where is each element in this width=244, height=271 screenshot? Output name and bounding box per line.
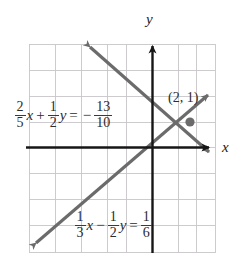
operator-plus: +	[34, 108, 47, 123]
intersection-point-label: (2, 1)	[168, 90, 198, 106]
variable-x: x	[86, 218, 94, 233]
variable-y: y	[119, 218, 127, 233]
y-axis-label: y	[146, 11, 153, 28]
fraction-one-sixth: 1 6	[141, 210, 152, 240]
fraction-two-fifths: 2 5	[15, 100, 26, 130]
equation-two-label: 1 3 x − 1 2 y = 1 6	[74, 210, 152, 240]
equation-one-label: 2 5 x + 1 2 y = − 13 10	[14, 100, 113, 130]
intersection-point-marker	[185, 117, 194, 126]
fraction-one-half-x: 1 2	[48, 100, 59, 130]
equals-sign: =	[127, 218, 140, 233]
variable-y: y	[59, 108, 67, 123]
fraction-one-half-y: 1 2	[108, 210, 119, 240]
fraction-thirteen-tenths: 13 10	[94, 100, 112, 130]
operator-minus: −	[94, 218, 107, 233]
graph-figure: y x (2, 1) 2 5 x + 1 2 y = − 13 10 1 3	[0, 0, 244, 271]
variable-x: x	[26, 108, 34, 123]
minus-sign: −	[80, 108, 93, 123]
x-axis-label: x	[222, 139, 229, 156]
equals-sign: =	[67, 108, 80, 123]
fraction-one-third: 1 3	[75, 210, 86, 240]
